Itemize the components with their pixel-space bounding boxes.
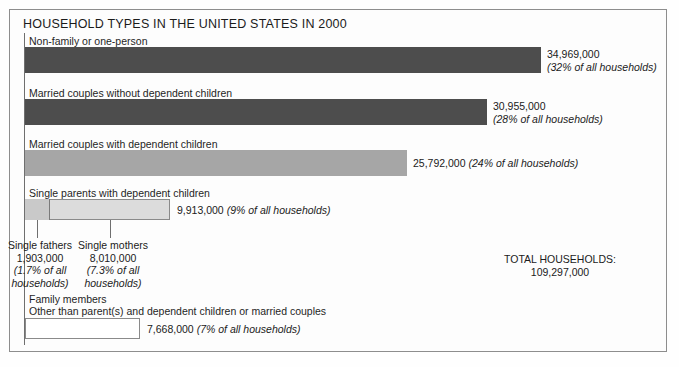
value-number-married-with-children: 25,792,000 — [413, 157, 466, 169]
callout-percent-line1-single-fathers: (1.7% of all — [0, 264, 80, 277]
bar-segment-single-fathers — [25, 199, 50, 220]
chart-figure: HOUSEHOLD TYPES IN THE UNITED STATES IN … — [0, 0, 679, 367]
bar-married-with-children — [25, 150, 407, 176]
chart-title: HOUSEHOLD TYPES IN THE UNITED STATES IN … — [23, 17, 347, 31]
category-label-married-without-children: Married couples without dependent childr… — [29, 87, 232, 99]
value-number-family-members: 7,668,000 — [147, 323, 194, 335]
callout-percent-line2-single-mothers: households) — [73, 277, 153, 290]
bar-married-without-children — [25, 99, 487, 125]
bar-non-family — [25, 47, 541, 73]
value-number-non-family: 34,969,000 — [547, 48, 657, 61]
category-sublabel-family-members: Other than parent(s) and dependent child… — [29, 305, 326, 317]
callout-percent-line2-single-fathers: households) — [0, 277, 80, 290]
callout-value-single-fathers: 1,903,000 — [0, 252, 80, 265]
value-label-married-without-children: 30,955,000 (28% of all households) — [493, 100, 603, 125]
leader-line-single-mothers — [110, 220, 111, 238]
category-label-single-parents: Single parents with dependent children — [29, 187, 210, 199]
total-households-block: TOTAL HOUSEHOLDS: 109,297,000 — [470, 253, 650, 279]
value-percent-non-family: (32% of all households) — [547, 61, 657, 74]
total-households-label: TOTAL HOUSEHOLDS: — [470, 253, 650, 266]
bar-segment-single-mothers — [50, 199, 170, 220]
bar-family-members — [25, 318, 140, 339]
value-label-non-family: 34,969,000 (32% of all households) — [547, 48, 657, 73]
callout-single-mothers: Single mothers 8,010,000 (7.3% of all ho… — [73, 239, 153, 289]
value-number-single-parents: 9,913,000 — [177, 204, 224, 216]
callout-percent-line1-single-mothers: (7.3% of all — [73, 264, 153, 277]
callout-value-single-mothers: 8,010,000 — [73, 252, 153, 265]
callout-single-fathers: Single fathers 1,903,000 (1.7% of all ho… — [0, 239, 80, 289]
value-percent-married-with-children: (24% of all households) — [468, 157, 578, 169]
category-label-family-members: Family members — [29, 293, 107, 305]
value-label-single-parents: 9,913,000 (9% of all households) — [177, 204, 331, 217]
axis-baseline — [24, 33, 25, 345]
callout-name-single-fathers: Single fathers — [0, 239, 80, 252]
value-label-family-members: 7,668,000 (7% of all households) — [147, 323, 301, 336]
value-label-married-with-children: 25,792,000 (24% of all households) — [413, 157, 578, 170]
category-label-married-with-children: Married couples with dependent children — [29, 138, 218, 150]
category-label-non-family: Non-family or one-person — [29, 35, 147, 47]
value-percent-family-members: (7% of all households) — [197, 323, 301, 335]
value-number-married-without-children: 30,955,000 — [493, 100, 603, 113]
leader-line-single-fathers — [37, 220, 38, 238]
value-percent-single-parents: (9% of all households) — [227, 204, 331, 216]
callout-name-single-mothers: Single mothers — [73, 239, 153, 252]
value-percent-married-without-children: (28% of all households) — [493, 113, 603, 126]
total-households-value: 109,297,000 — [470, 266, 650, 279]
